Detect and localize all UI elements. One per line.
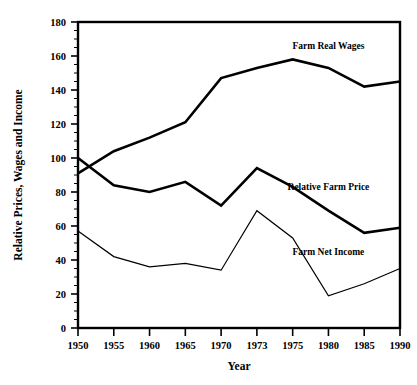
series-annotation-2: Farm Net Income: [293, 247, 365, 257]
y-axis-tick-labels: 020406080100120140160180: [50, 17, 66, 334]
plot-frame: [78, 22, 400, 328]
y-axis-title: Relative Prices, Wages and Income: [12, 89, 25, 260]
y-tick-label: 60: [56, 221, 67, 232]
x-tick-label: 1950: [68, 340, 89, 351]
y-tick-label: 80: [56, 187, 67, 198]
line-chart: 020406080100120140160180 195019551960196…: [0, 0, 417, 385]
y-tick-label: 20: [56, 289, 67, 300]
y-tick-label: 40: [56, 255, 67, 266]
y-tick-label: 160: [50, 51, 66, 62]
x-tick-label: 1960: [139, 340, 160, 351]
x-tick-label: 1965: [175, 340, 196, 351]
chart-container: 020406080100120140160180 195019551960196…: [0, 0, 417, 385]
y-tick-label: 100: [50, 153, 66, 164]
series-line-1: [78, 158, 400, 233]
x-axis-ticks: [78, 328, 400, 336]
y-tick-label: 180: [50, 17, 66, 28]
data-series-group: [78, 59, 400, 295]
series-annotation-0: Farm Real Wages: [292, 41, 364, 51]
x-axis-title: Year: [228, 360, 251, 372]
x-tick-label: 1990: [390, 340, 411, 351]
y-tick-label: 120: [50, 119, 66, 130]
x-tick-label: 1975: [282, 340, 303, 351]
x-tick-label: 1985: [354, 340, 375, 351]
x-tick-label: 1973: [246, 340, 267, 351]
x-tick-label: 1970: [211, 340, 232, 351]
series-annotations-group: Farm Real WagesRelative Farm PriceFarm N…: [288, 41, 370, 257]
series-annotation-1: Relative Farm Price: [288, 182, 370, 192]
y-tick-label: 140: [50, 85, 66, 96]
x-tick-label: 1980: [318, 340, 339, 351]
x-tick-label: 1955: [103, 340, 124, 351]
x-axis-tick-labels: 1950195519601965197019731975198019851990: [68, 340, 411, 351]
series-line-0: [78, 59, 400, 173]
y-tick-label: 0: [61, 323, 66, 334]
